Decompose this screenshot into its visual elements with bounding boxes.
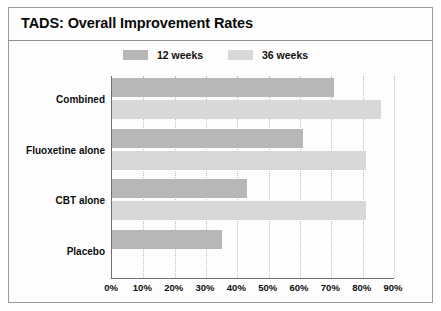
- x-tick-label: 0%: [104, 282, 118, 293]
- gridline: [394, 76, 395, 278]
- chart-title: TADS: Overall Improvement Rates: [21, 15, 253, 31]
- category-label: Combined: [10, 94, 105, 105]
- x-tick-label: 90%: [383, 282, 402, 293]
- bar: [112, 201, 366, 220]
- bar-group: Combined: [112, 76, 394, 127]
- category-label: Placebo: [10, 246, 105, 257]
- legend-item-36-weeks: 36 weeks: [228, 48, 308, 62]
- bar: [112, 179, 247, 198]
- bar: [112, 129, 303, 148]
- plot-area: CombinedFluoxetine aloneCBT alonePlacebo: [111, 76, 394, 279]
- category-label: Fluoxetine alone: [10, 145, 105, 156]
- bar-group: Fluoxetine alone: [112, 127, 394, 178]
- chart-legend: 12 weeks 36 weeks: [9, 48, 432, 70]
- bar: [112, 100, 381, 119]
- x-tick-label: 30%: [195, 282, 214, 293]
- x-tick-label: 50%: [258, 282, 277, 293]
- chart-figure: TADS: Overall Improvement Rates 12 weeks…: [8, 7, 433, 303]
- bar: [112, 230, 222, 249]
- legend-item-12-weeks: 12 weeks: [123, 48, 203, 62]
- legend-swatch-12-weeks: [123, 50, 148, 60]
- x-tick-label: 10%: [133, 282, 152, 293]
- bar: [112, 151, 366, 170]
- x-tick-label: 80%: [352, 282, 371, 293]
- bar-group: CBT alone: [112, 177, 394, 228]
- bar: [112, 78, 334, 97]
- legend-swatch-36-weeks: [228, 50, 253, 60]
- category-label: CBT alone: [10, 195, 105, 206]
- x-tick-label: 20%: [164, 282, 183, 293]
- plot-wrapper: CombinedFluoxetine aloneCBT alonePlacebo…: [9, 70, 432, 302]
- title-band: TADS: Overall Improvement Rates: [9, 8, 432, 41]
- legend-label-12-weeks: 12 weeks: [157, 49, 203, 61]
- bar-group: Placebo: [112, 228, 394, 279]
- legend-label-36-weeks: 36 weeks: [262, 49, 308, 61]
- x-axis-ticks: 0%10%20%30%40%50%60%70%80%90%: [111, 282, 393, 302]
- x-tick-label: 60%: [289, 282, 308, 293]
- x-tick-label: 70%: [321, 282, 340, 293]
- x-tick-label: 40%: [227, 282, 246, 293]
